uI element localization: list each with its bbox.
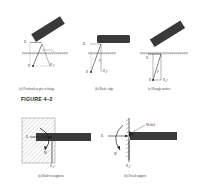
label-m: M — [43, 151, 47, 155]
diagram-fixed-support: Welded Rₓ M R_y — [100, 118, 177, 168]
label-rx: Rₓ — [25, 135, 29, 139]
caption-rough-surface: (c) Rough surface — [148, 87, 171, 91]
label-r: R — [27, 64, 30, 68]
caption-built-in-supports: (a) Built-in supports — [38, 174, 64, 178]
figure-title: FIGURE 4–2 — [21, 96, 53, 102]
beam — [150, 20, 185, 47]
welded-leader — [133, 125, 145, 132]
beam — [97, 35, 130, 43]
label-rx: Rₓ — [100, 134, 104, 138]
label-rx: Rₓ — [23, 40, 27, 44]
label-ry: R_y — [102, 69, 108, 73]
diagram-knife-edge: Rₓ R R_y θ — [82, 35, 130, 74]
reaction-R — [33, 44, 42, 66]
support-diagrams: Rₓ R R_y Rₓ R R_y θ Rₓ R R_y θ — [0, 0, 201, 187]
label-welded: Welded — [146, 123, 156, 127]
diagram-built-in-support: Rₓ M R_y — [22, 118, 91, 168]
label-r: R — [85, 70, 88, 74]
label-r: R — [148, 78, 151, 82]
label-rx: Rₓ — [145, 56, 149, 60]
caption-pin-hinge: (a) Frictionless pin or hinge — [19, 87, 54, 91]
caption-fixed-support: (b) Fixed support — [124, 174, 146, 178]
label-theta: θ — [99, 59, 101, 63]
label-ry: R_y — [162, 78, 168, 82]
diagram-rough-surface: Rₓ R R_y θ — [140, 20, 188, 82]
label-ry: R_y — [49, 63, 55, 67]
label-rx: Rₓ — [82, 42, 86, 46]
caption-knife-edge: (b) Knife edge — [95, 87, 114, 91]
beam — [31, 16, 65, 42]
label-m: M — [113, 152, 117, 156]
label-ry: R_y — [49, 164, 55, 168]
beam — [130, 132, 177, 140]
diagram-pin-hinge: Rₓ R R_y — [22, 16, 68, 68]
label-ry: R_y — [125, 164, 131, 168]
label-theta: θ — [157, 70, 159, 74]
